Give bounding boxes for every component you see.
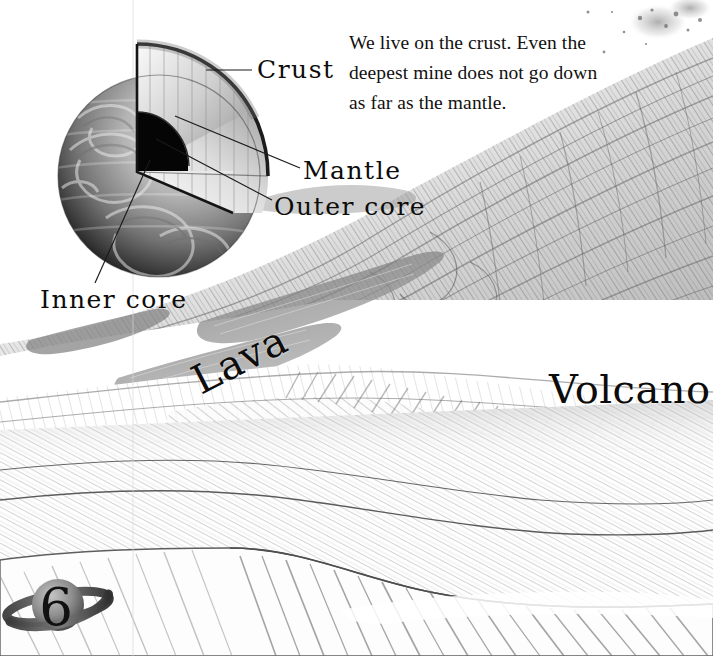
page-number-planet: 6 [2,565,117,645]
page-number: 6 [36,581,76,633]
body-paragraph: We live on the crust. Even the deepest m… [349,28,639,118]
page-canvas: 6 We live on the crust. Even the deepest… [0,0,713,656]
label-inner-core: Inner core [40,285,188,314]
label-outer-core: Outer core [274,192,426,221]
label-mantle: Mantle [303,156,401,185]
label-volcano: Volcano [549,366,711,412]
body-line-1: We live on the crust. Even the [349,28,639,58]
body-line-2: deepest mine does not go down [349,58,639,88]
body-line-3: as far as the mantle. [349,88,639,118]
label-crust: Crust [257,55,335,84]
